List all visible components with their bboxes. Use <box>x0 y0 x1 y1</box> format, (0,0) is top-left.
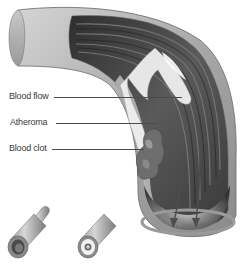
artery-illustration <box>0 0 240 272</box>
label-blood-clot: Blood clot <box>9 143 47 153</box>
artery-diagram: Blood flow Atheroma Blood clot <box>0 0 240 272</box>
leader-line-blood-clot <box>52 149 144 150</box>
narrowed-vessel-icon <box>78 214 116 258</box>
leader-line-blood-flow <box>54 97 182 98</box>
leader-line-atheroma <box>56 123 156 124</box>
healthy-vessel-icon <box>8 206 49 258</box>
label-blood-flow: Blood flow <box>9 91 49 101</box>
label-atheroma: Atheroma <box>10 117 47 127</box>
